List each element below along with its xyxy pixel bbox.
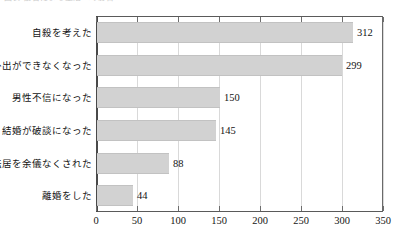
gridline <box>219 17 220 211</box>
bar-value-label: 88 <box>173 158 184 170</box>
x-axis-tick-mark-bottom <box>137 206 138 211</box>
x-axis-tick-label: 50 <box>117 215 157 227</box>
x-axis-tick-mark-bottom <box>383 206 384 211</box>
x-axis-tick-label: 200 <box>240 215 280 227</box>
gridline <box>260 17 261 211</box>
gridline <box>178 17 179 211</box>
bar <box>97 185 133 206</box>
x-axis-tick-label: 300 <box>322 215 362 227</box>
bar <box>97 55 342 76</box>
category-label: 自殺を考えた <box>32 27 92 38</box>
bar <box>97 87 220 108</box>
category-label: 男性不信になった <box>12 92 92 103</box>
category-label: 外出ができなくなった <box>0 60 92 71</box>
x-axis-tick-mark-bottom <box>342 206 343 211</box>
category-label: 結婚が破談になった <box>2 125 92 136</box>
bar-chart: 図表 被害による生活への影響 050100150200250300350 自殺を… <box>0 0 403 245</box>
x-axis-tick-mark-bottom <box>301 206 302 211</box>
y-axis-line <box>96 16 98 212</box>
bar-value-label: 150 <box>224 92 240 104</box>
gridline <box>137 17 138 211</box>
bar-value-label: 145 <box>220 125 236 137</box>
bar <box>97 120 216 141</box>
category-label: 転居を余儀なくされた <box>0 158 92 169</box>
bar-value-label: 312 <box>357 27 373 39</box>
x-axis-tick-label: 250 <box>281 215 321 227</box>
x-axis-tick-label: 0 <box>76 215 116 227</box>
x-axis-tick-mark-bottom <box>178 206 179 211</box>
x-axis-tick-mark-top <box>383 17 384 22</box>
x-axis-tick-mark-bottom <box>260 206 261 211</box>
gridline <box>342 17 343 211</box>
x-axis-tick-mark-bottom <box>219 206 220 211</box>
category-label: 離婚をした <box>42 190 92 201</box>
gridline <box>383 17 384 211</box>
x-axis-tick-mark-bottom <box>96 206 97 211</box>
gridline <box>301 17 302 211</box>
x-axis-tick-label: 150 <box>199 215 239 227</box>
chart-header-caption: 図表 被害による生活への影響 <box>4 0 115 3</box>
x-axis-tick-label: 350 <box>363 215 403 227</box>
bar-value-label: 299 <box>346 60 362 72</box>
bar <box>97 153 169 174</box>
x-axis-tick-label: 100 <box>158 215 198 227</box>
bar-value-label: 44 <box>137 190 148 202</box>
bar <box>97 22 353 43</box>
plot-area-frame <box>96 16 383 212</box>
